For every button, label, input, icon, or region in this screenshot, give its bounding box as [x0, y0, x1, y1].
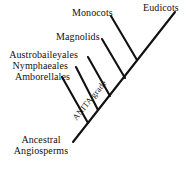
taxon-label-amborellales: Amborellales: [15, 71, 70, 82]
taxon-label-nymphaeales: Nymphaeales: [12, 60, 68, 71]
taxon-label-monocots: Monocots: [72, 7, 113, 18]
root-label-line2: Angiosperms: [10, 145, 72, 156]
root-label-ancestral-angiosperms: Ancestral Angiosperms: [10, 134, 72, 156]
root-label-line1: Ancestral: [21, 134, 60, 145]
angiosperm-cladogram-figure: Austrobaileyales Nymphaeales Amborellale…: [0, 0, 188, 173]
taxon-label-eudicots: Eudicots: [143, 2, 179, 13]
taxon-label-magnolids: Magnolids: [56, 31, 100, 42]
branch-magnolids: [102, 39, 125, 78]
branch-monocots: [111, 16, 137, 60]
taxon-label-austrobaileyales: Austrobaileyales: [9, 49, 78, 60]
